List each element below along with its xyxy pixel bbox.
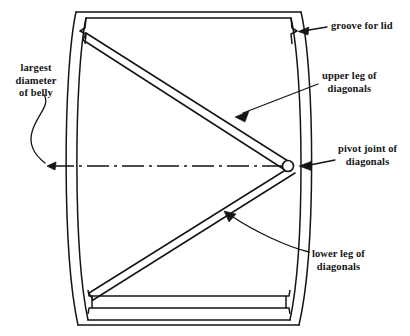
label-upper-leg-line-2: diagonals [328, 83, 372, 94]
lower-diagonal-band-edge-a [89, 166, 292, 293]
label-pivot-joint-of-diagonals: pivot joint ofdiagonals [338, 143, 397, 168]
label-pivot-joint-line-2: diagonals [346, 156, 390, 167]
left-stave-inner-edge [77, 18, 88, 320]
barrel-outline-group [66, 12, 312, 325]
leader-largest-diameter [31, 95, 46, 163]
groove-notch-group [80, 18, 297, 44]
label-largest-diameter-of-belly: largestdiameterof belly [5, 62, 67, 100]
belly-diameter-centerline-group [47, 162, 283, 170]
label-lower-leg-of-diagonals: lower leg ofdiagonals [312, 248, 365, 273]
label-groove-for-lid: groove for lid [331, 20, 393, 33]
label-lower-leg-line-1: lower leg of [312, 248, 365, 259]
upper-diagonal-band-edge-b [83, 40, 285, 170]
lower-diagonal-band-edge-b [93, 173, 295, 300]
label-largest-diameter-line-1: largest [20, 62, 51, 73]
label-upper-leg-of-diagonals: upper leg ofdiagonals [322, 70, 377, 95]
barrel-diagram [0, 0, 410, 336]
label-lower-leg-line-2: diagonals [317, 261, 361, 272]
upper-diagonal-band-edge-a [86, 33, 288, 161]
centerline-left-arrowhead [47, 162, 56, 170]
bottom-notch-right [286, 290, 290, 314]
arrowhead-upper-leg [235, 111, 249, 122]
leader-arrowheads-group [224, 27, 311, 222]
pivot-joint-circle [283, 161, 294, 172]
figure-canvas: groove for lid upper leg ofdiagonals piv… [0, 0, 410, 336]
label-pivot-joint-line-1: pivot joint of [338, 143, 397, 154]
label-largest-diameter-line-2: diameter [15, 75, 56, 86]
label-upper-leg-line-1: upper leg of [322, 70, 377, 81]
label-largest-diameter-line-3: of belly [19, 87, 53, 98]
leader-upper-leg [243, 84, 318, 113]
leader-lower-leg [230, 215, 309, 252]
bottom-head-plank-group [88, 290, 290, 314]
